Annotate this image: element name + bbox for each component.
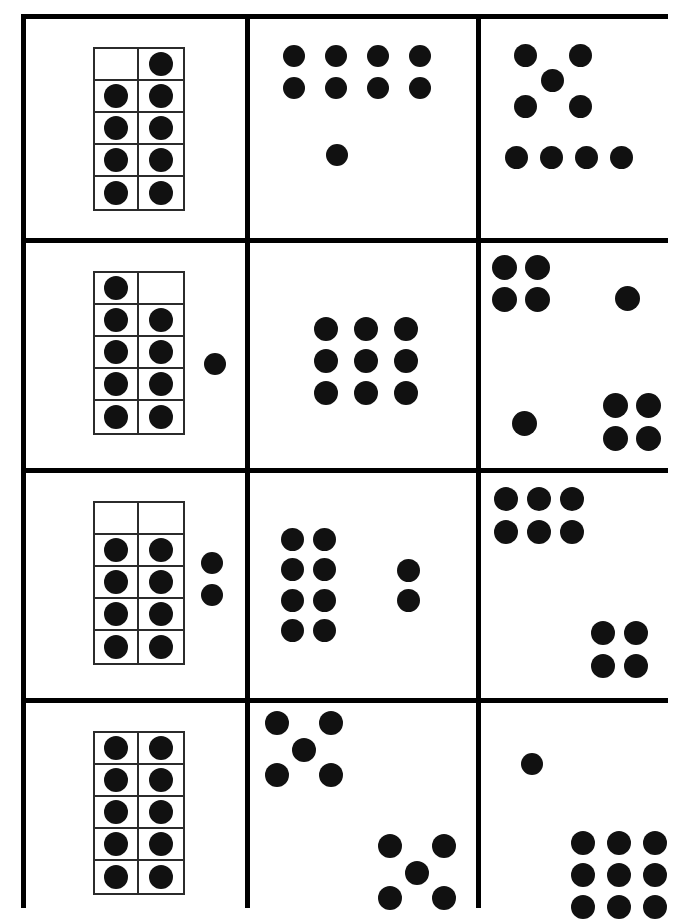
ten-frame-cell[interactable] bbox=[139, 273, 183, 305]
card-r1c3[interactable] bbox=[481, 19, 681, 238]
ten-frame-cell[interactable] bbox=[95, 305, 139, 337]
counter-dot bbox=[397, 589, 420, 612]
ten-frame-cell[interactable] bbox=[139, 401, 183, 433]
ten-frame-cell[interactable] bbox=[139, 631, 183, 663]
ten-frame-cell[interactable] bbox=[139, 503, 183, 535]
ten-frame-cell[interactable] bbox=[95, 113, 139, 145]
ten-frame-cell[interactable] bbox=[139, 599, 183, 631]
ten-frame-cell[interactable] bbox=[139, 49, 183, 81]
card-r3c1[interactable] bbox=[26, 473, 245, 698]
card-r3c2[interactable] bbox=[250, 473, 476, 698]
ten-frame bbox=[93, 271, 185, 435]
counter-dot bbox=[607, 863, 631, 887]
ten-frame-cell[interactable] bbox=[139, 861, 183, 893]
counter-dot bbox=[494, 487, 518, 511]
ten-frame-cell[interactable] bbox=[139, 177, 183, 209]
card-r1c2[interactable] bbox=[250, 19, 476, 238]
card-r2c1[interactable] bbox=[26, 243, 245, 468]
ten-frame-cell[interactable] bbox=[95, 273, 139, 305]
counter-dot bbox=[575, 146, 598, 169]
counter-dot bbox=[313, 558, 336, 581]
counter-dot bbox=[636, 426, 661, 451]
ten-frame-cell[interactable] bbox=[139, 81, 183, 113]
ten-frame-cell[interactable] bbox=[139, 733, 183, 765]
card-r4c1[interactable] bbox=[26, 703, 245, 922]
counter-dot bbox=[512, 411, 537, 436]
counter-dot bbox=[527, 487, 551, 511]
card-r1c1[interactable] bbox=[26, 19, 245, 238]
counter-dot bbox=[149, 736, 173, 760]
card-r4c2[interactable] bbox=[250, 703, 476, 922]
ten-frame-cell[interactable] bbox=[139, 145, 183, 177]
counter-dot bbox=[104, 768, 128, 792]
counter-dot bbox=[314, 349, 338, 373]
ten-frame-cell[interactable] bbox=[95, 503, 139, 535]
counter-dot bbox=[432, 886, 456, 910]
ten-frame-cell[interactable] bbox=[139, 567, 183, 599]
counter-dot bbox=[525, 287, 550, 312]
ten-frame-cell[interactable] bbox=[95, 401, 139, 433]
card-r4c3[interactable] bbox=[481, 703, 681, 922]
ten-frame bbox=[93, 731, 185, 895]
ten-frame-cell[interactable] bbox=[139, 829, 183, 861]
card-r2c3[interactable] bbox=[481, 243, 681, 468]
counter-dot bbox=[643, 895, 667, 919]
counter-dot bbox=[525, 255, 550, 280]
counter-dot bbox=[492, 255, 517, 280]
counter-dot bbox=[394, 349, 418, 373]
counter-dot bbox=[397, 559, 420, 582]
counter-dot bbox=[319, 763, 343, 787]
ten-frame-cell[interactable] bbox=[139, 797, 183, 829]
counter-dot bbox=[405, 861, 429, 885]
ten-frame-cell[interactable] bbox=[95, 337, 139, 369]
counter-dot bbox=[104, 308, 128, 332]
counter-dot bbox=[149, 148, 173, 172]
ten-frame bbox=[93, 501, 185, 665]
ten-frame-cell[interactable] bbox=[139, 113, 183, 145]
ten-frame-cell[interactable] bbox=[95, 765, 139, 797]
ten-frame-cell[interactable] bbox=[95, 733, 139, 765]
counter-dot bbox=[104, 800, 128, 824]
ten-frame-cell[interactable] bbox=[139, 369, 183, 401]
ten-frame-cell[interactable] bbox=[95, 797, 139, 829]
ten-frame-cell[interactable] bbox=[95, 599, 139, 631]
counter-dot bbox=[149, 800, 173, 824]
counter-dot bbox=[394, 317, 418, 341]
counter-dot bbox=[283, 77, 305, 99]
counter-dot bbox=[367, 45, 389, 67]
counter-dot bbox=[281, 589, 304, 612]
counter-dot bbox=[201, 584, 223, 606]
counter-dot bbox=[104, 832, 128, 856]
ten-frame-cell[interactable] bbox=[95, 145, 139, 177]
ten-frame-cell[interactable] bbox=[95, 177, 139, 209]
ten-frame-cell[interactable] bbox=[95, 81, 139, 113]
ten-frame-cell[interactable] bbox=[139, 337, 183, 369]
card-r3c3[interactable] bbox=[481, 473, 681, 698]
ten-frame-cell[interactable] bbox=[139, 305, 183, 337]
counter-dot bbox=[354, 317, 378, 341]
empty-cell-slot bbox=[149, 276, 173, 300]
counter-dot bbox=[149, 116, 173, 140]
ten-frame-cell[interactable] bbox=[95, 535, 139, 567]
counter-dot bbox=[394, 381, 418, 405]
counter-dot bbox=[283, 45, 305, 67]
counter-dot bbox=[104, 372, 128, 396]
counter-dot bbox=[281, 528, 304, 551]
ten-frame-cell[interactable] bbox=[95, 49, 139, 81]
ten-frame-cell[interactable] bbox=[95, 631, 139, 663]
counter-dot bbox=[149, 52, 173, 76]
counter-dot bbox=[201, 552, 223, 574]
ten-frame-cell[interactable] bbox=[139, 765, 183, 797]
counter-dot bbox=[325, 77, 347, 99]
ten-frame-cell[interactable] bbox=[95, 829, 139, 861]
ten-frame-cell[interactable] bbox=[95, 861, 139, 893]
card-r2c2[interactable] bbox=[250, 243, 476, 468]
counter-dot bbox=[104, 538, 128, 562]
ten-frame-cell[interactable] bbox=[95, 567, 139, 599]
counter-dot bbox=[104, 340, 128, 364]
ten-frame-cell[interactable] bbox=[95, 369, 139, 401]
counter-dot bbox=[378, 886, 402, 910]
counter-dot bbox=[325, 45, 347, 67]
ten-frame-cell[interactable] bbox=[139, 535, 183, 567]
counter-dot bbox=[104, 736, 128, 760]
